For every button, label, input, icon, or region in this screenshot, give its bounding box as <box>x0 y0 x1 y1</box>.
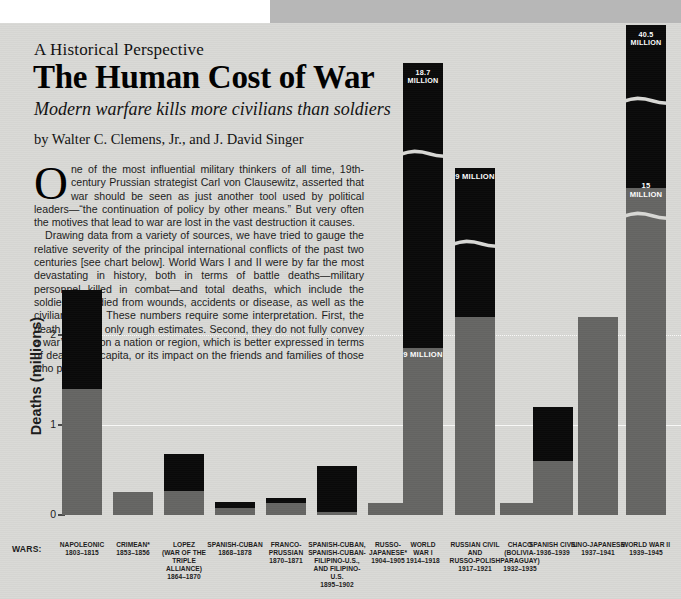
war-deaths-chart: Deaths (millions) 012 18.7MILLION9 MILLI… <box>0 23 681 599</box>
war-label-years: 1868–1878 <box>206 549 264 557</box>
bar-segment-battle-deaths <box>403 348 443 515</box>
war-label-name-line: PRUSSIAN <box>257 549 315 557</box>
war-label-name-line: SPANISH-CUBAN <box>206 541 264 549</box>
war-label-years: 1939–1945 <box>617 549 675 557</box>
war-label-name-line: (WAR OF THE <box>155 549 213 557</box>
bar-6 <box>317 466 357 516</box>
war-label-years: 1864–1870 <box>155 573 213 581</box>
war-label-name-line: SPANISH-CUBAN, <box>308 541 366 549</box>
chart-bars: 18.7MILLION9 MILLION9 MILLION40.5MILLION… <box>0 23 681 599</box>
bar-segment-battle-deaths <box>266 503 306 515</box>
article-panel: A Historical Perspective The Human Cost … <box>0 23 681 599</box>
war-label-years: 1914–1918 <box>394 557 452 565</box>
bar-4 <box>215 502 255 515</box>
bar-2 <box>113 492 153 515</box>
war-label-1: NAPOLEONIC1803–1815 <box>53 541 111 557</box>
war-label-8: WORLDWAR I1914–1918 <box>394 541 452 565</box>
bar-8: 18.7MILLION9 MILLION <box>403 63 443 515</box>
bar-12 <box>578 317 618 515</box>
war-label-years: 1870–1871 <box>257 557 315 565</box>
war-label-name-line: FILIPINO-U.S., <box>308 557 366 565</box>
bar-13: 40.5MILLION15 MILLION <box>626 25 666 515</box>
war-label-name-line: NAPOLEONIC <box>53 541 111 549</box>
war-label-name-line: WORLD WAR II <box>617 541 675 549</box>
war-label-name-line: SPANISH-CUBAN- <box>308 549 366 557</box>
bar-segment-battle-deaths <box>164 491 204 515</box>
war-label-years: 1803–1815 <box>53 549 111 557</box>
bar-segment-battle-deaths <box>533 461 573 515</box>
bar-segment-battle-deaths <box>578 317 618 515</box>
war-label-5: FRANCO-PRUSSIAN1870–1871 <box>257 541 315 565</box>
page-bleed-block <box>270 0 681 24</box>
war-label-years: 1895–1902 <box>308 581 366 589</box>
bar-segment-battle-deaths <box>215 508 255 515</box>
war-label-6: SPANISH-CUBAN,SPANISH-CUBAN-FILIPINO-U.S… <box>308 541 366 588</box>
war-label-3: LOPEZ(WAR OF THETRIPLE ALLIANCE)1864–187… <box>155 541 213 581</box>
bar-segment-battle-deaths <box>626 188 666 515</box>
war-label-4: SPANISH-CUBAN1868–1878 <box>206 541 264 557</box>
bar-segment-battle-deaths <box>113 492 153 515</box>
bar-segment-battle-deaths <box>62 389 102 515</box>
war-label-name-line: FRANCO- <box>257 541 315 549</box>
bar-5 <box>266 498 306 515</box>
bar-9: 9 MILLION <box>455 168 495 515</box>
chart-x-axis-label: WARS: <box>12 544 42 554</box>
article-page: A Historical Perspective The Human Cost … <box>0 0 681 599</box>
bar-segment-total-deaths <box>317 466 357 516</box>
war-label-name-line: WAR I <box>394 549 452 557</box>
bar-11 <box>533 407 573 515</box>
war-label-13: WORLD WAR II1939–1945 <box>617 541 675 557</box>
war-label-name-line: PARAGUAY) <box>491 557 549 565</box>
war-label-2: CRIMEAN*1853–1856 <box>104 541 162 557</box>
bar-1 <box>62 290 102 515</box>
bar-total-value-label: 40.5MILLION <box>626 31 666 48</box>
bar-segment-battle-deaths <box>317 512 357 515</box>
war-label-years: 1853–1856 <box>104 549 162 557</box>
bar-total-value-label: 18.7MILLION <box>403 69 443 86</box>
war-label-years: 1932–1935 <box>491 565 549 573</box>
bar-battle-value-label: 9 MILLION <box>403 351 443 359</box>
bar-segment-battle-deaths <box>455 317 495 515</box>
bar-7 <box>368 503 408 515</box>
bar-segment-battle-deaths <box>368 503 408 515</box>
war-label-name-line: WORLD <box>394 541 452 549</box>
war-label-name-line: CRIMEAN* <box>104 541 162 549</box>
war-label-name-line: TRIPLE ALLIANCE) <box>155 557 213 573</box>
war-label-name-line: AND FILIPINO-U.S. <box>308 565 366 581</box>
bar-total-value-label: 9 MILLION <box>455 173 495 181</box>
bar-3 <box>164 454 204 515</box>
war-label-name-line: LOPEZ <box>155 541 213 549</box>
bar-battle-value-label: 15 MILLION <box>626 182 666 199</box>
